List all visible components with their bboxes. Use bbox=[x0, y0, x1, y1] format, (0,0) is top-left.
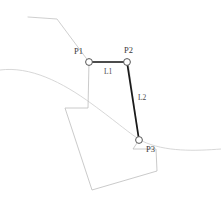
vertex-marker-p1[interactable] bbox=[86, 59, 93, 66]
terrain-contour-curve bbox=[0, 69, 221, 150]
vertex-marker-p3[interactable] bbox=[136, 137, 143, 144]
vertex-marker-p2[interactable] bbox=[124, 59, 131, 66]
parcel-diagram-svg: P1 P2 P3 L1 L2 bbox=[0, 0, 221, 217]
vertex-label-p2: P2 bbox=[124, 45, 133, 55]
segment-label-l2: L2 bbox=[138, 93, 147, 102]
diagram-canvas: P1 P2 P3 L1 L2 bbox=[0, 0, 221, 217]
segment-label-l1: L1 bbox=[104, 67, 113, 76]
vertex-label-p3: P3 bbox=[146, 144, 155, 154]
vertex-label-p1: P1 bbox=[74, 46, 83, 56]
parcel-polygon[interactable] bbox=[65, 62, 157, 190]
active-measurement-path[interactable] bbox=[89, 62, 139, 140]
